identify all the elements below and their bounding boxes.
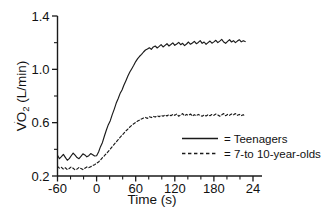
y-axis-title-text: V̇O2 (L/min) — [14, 61, 31, 132]
y-axis-title-unit: (L/min) — [14, 61, 29, 107]
series-line-teenagers — [58, 39, 246, 160]
vo2-kinetics-line-chart: 0.20.61.01.4 -6006012018024 V̇O2 (L/min)… — [0, 0, 328, 218]
chart-figure: 0.20.61.01.4 -6006012018024 V̇O2 (L/min)… — [0, 0, 328, 218]
x-axis-title: Time (s) — [128, 192, 177, 207]
y-axis-title: V̇O2 (L/min) — [14, 61, 31, 132]
x-tick-label: 0 — [93, 181, 100, 196]
data-series-layer — [58, 39, 246, 170]
y-tick-label: 0.2 — [31, 169, 49, 184]
legend-label-teenagers: = Teenagers — [224, 133, 288, 145]
y-tick-label: 1.4 — [31, 9, 49, 24]
x-tick-label: -60 — [48, 181, 67, 196]
series-line-7-to-10-year-olds — [58, 114, 246, 170]
legend-label-children: = 7-to 10-year-olds — [224, 148, 321, 160]
chart-legend: = Teenagers = 7-to 10-year-olds — [182, 133, 321, 160]
y-axis-title-o: O — [14, 112, 29, 123]
x-tick-label: 180 — [203, 181, 225, 196]
y-axis-title-v: V — [14, 122, 29, 131]
y-axis-tick-labels: 0.20.61.01.4 — [31, 9, 49, 184]
y-tick-label: 0.6 — [31, 115, 49, 130]
y-tick-label: 1.0 — [31, 62, 49, 77]
x-tick-label: 24 — [246, 181, 260, 196]
